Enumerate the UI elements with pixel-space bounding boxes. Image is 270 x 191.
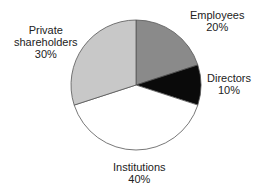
label-value: 20% bbox=[190, 21, 244, 33]
label-employees: Employees 20% bbox=[190, 9, 244, 33]
label-name-line2: shareholders bbox=[14, 36, 78, 48]
label-name: Institutions bbox=[113, 161, 166, 173]
label-directors: Directors 10% bbox=[207, 72, 251, 96]
label-private-shareholders: Private shareholders 30% bbox=[14, 24, 78, 60]
label-value: 10% bbox=[207, 84, 251, 96]
label-value: 30% bbox=[14, 48, 78, 60]
label-name: Employees bbox=[190, 9, 244, 21]
label-name: Directors bbox=[207, 72, 251, 84]
label-value: 40% bbox=[113, 173, 166, 185]
label-institutions: Institutions 40% bbox=[113, 161, 166, 185]
label-name: Private bbox=[14, 24, 78, 36]
